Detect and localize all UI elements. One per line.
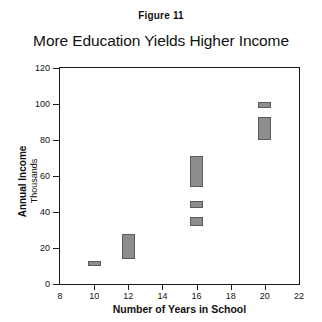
y-axis-tick-label: 0 (24, 279, 50, 289)
data-bar (190, 217, 203, 226)
y-axis-tick-label: 120 (24, 63, 50, 73)
x-axis-tick (231, 284, 232, 290)
y-axis-tick (53, 212, 60, 213)
x-axis-tick-label: 12 (123, 291, 133, 301)
x-axis-tick (94, 284, 95, 290)
y-axis-tick (53, 104, 60, 105)
x-axis-tick (197, 284, 198, 290)
y-axis-tick-label: 40 (24, 207, 50, 217)
x-axis-tick (265, 284, 266, 290)
x-axis-tick-label: 18 (226, 291, 236, 301)
x-axis-tick-label: 10 (89, 291, 99, 301)
data-bar (258, 102, 271, 107)
figure-number-label: Figure 11 (0, 10, 322, 21)
y-axis-tick-label: 20 (24, 243, 50, 253)
x-axis-tick-label: 14 (157, 291, 167, 301)
y-axis-tick-label: 100 (24, 99, 50, 109)
plot-area: 020406080100120810121416182022 (59, 67, 300, 285)
x-axis-tick-label: 16 (192, 291, 202, 301)
y-axis-tick-label: 80 (24, 135, 50, 145)
x-axis-tick (128, 284, 129, 290)
y-axis-tick-label: 60 (24, 171, 50, 181)
y-axis-tick (53, 68, 60, 69)
data-bar (122, 234, 135, 259)
data-bar (190, 156, 203, 187)
y-axis-tick (53, 284, 60, 285)
x-axis-tick-label: 22 (294, 291, 304, 301)
data-bar (258, 117, 271, 140)
data-bar (88, 261, 101, 266)
figure-container: Figure 11 More Education Yields Higher I… (0, 0, 322, 322)
plot-inner: 020406080100120810121416182022 (60, 68, 299, 284)
data-bar (190, 201, 203, 208)
x-axis-tick-label: 20 (260, 291, 270, 301)
y-axis-tick (53, 176, 60, 177)
x-axis-tick (162, 284, 163, 290)
y-axis-tick (53, 248, 60, 249)
chart-title: More Education Yields Higher Income (0, 32, 322, 50)
x-axis-label: Number of Years in School (59, 303, 300, 315)
x-axis-tick-label: 8 (57, 291, 62, 301)
y-axis-tick (53, 140, 60, 141)
